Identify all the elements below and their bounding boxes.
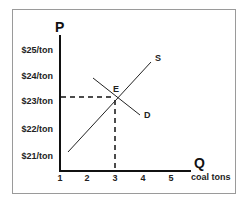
y-tick-25: $25/ton bbox=[21, 45, 53, 55]
y-tick-21: $21/ton bbox=[21, 151, 53, 161]
x-axis-label: Q bbox=[194, 155, 205, 171]
y-tick-22: $22/ton bbox=[21, 124, 53, 134]
x-tick-3: 3 bbox=[112, 173, 117, 183]
y-tick-23: $23/ton bbox=[21, 96, 53, 106]
x-axis-units: coal tons bbox=[191, 172, 231, 182]
demand-label: D bbox=[144, 110, 151, 120]
x-tick-4: 4 bbox=[140, 173, 145, 183]
x-tick-2: 2 bbox=[84, 173, 89, 183]
supply-label: S bbox=[155, 53, 161, 63]
y-axis-label: P bbox=[55, 19, 64, 35]
x-tick-1: 1 bbox=[57, 173, 62, 183]
y-tick-24: $24/ton bbox=[21, 71, 53, 81]
equilibrium-label: E bbox=[113, 84, 119, 94]
x-tick-5: 5 bbox=[168, 173, 173, 183]
supply-demand-chart: P Q coal tons $25/ton $24/ton $23/ton $2… bbox=[0, 0, 250, 204]
